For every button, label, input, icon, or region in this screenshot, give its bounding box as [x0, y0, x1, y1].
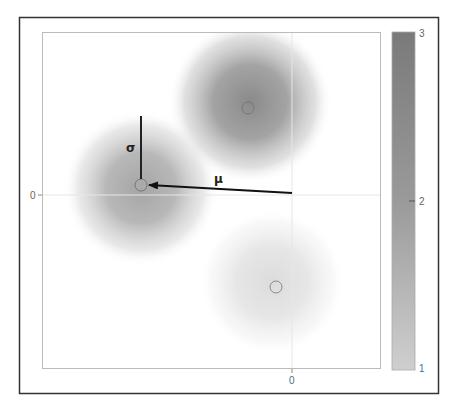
colorbar-label-3: 3: [419, 28, 425, 39]
x-tick-label: 0: [289, 375, 295, 386]
figure: σ μ 0 0 3 2 1: [0, 0, 456, 408]
marker-left-center: [135, 179, 147, 191]
colorbar-label-2: 2: [419, 196, 425, 207]
plot-area: [42, 20, 381, 369]
mu-label: μ: [214, 172, 223, 186]
y-tick-label: 0: [30, 190, 36, 201]
colorbar-label-1: 1: [419, 363, 425, 374]
sigma-label: σ: [126, 141, 135, 155]
